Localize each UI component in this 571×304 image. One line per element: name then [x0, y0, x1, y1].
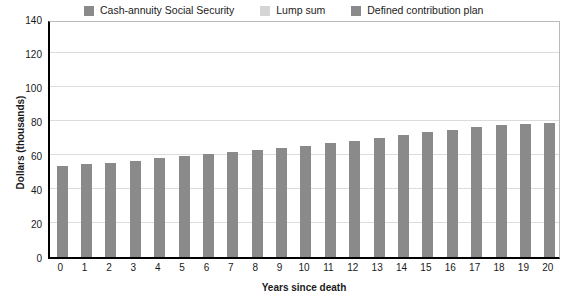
bar[interactable]: [105, 163, 116, 257]
x-axis-tick-labels: 01234567891011121314151617181920: [48, 262, 560, 276]
bar[interactable]: [349, 141, 360, 257]
bar[interactable]: [154, 158, 165, 257]
x-axis-tick-label: 14: [396, 262, 407, 274]
bar-series-defined-contribution-plan: [50, 22, 559, 257]
bar[interactable]: [374, 138, 385, 257]
bar-slot: [513, 22, 537, 257]
x-axis-tick-label: 10: [298, 262, 309, 274]
legend-item-cash-annuity-social-security[interactable]: Cash-annuity Social Security: [84, 5, 234, 16]
bar[interactable]: [300, 146, 311, 257]
bar[interactable]: [422, 132, 433, 257]
legend-item-label: Lump sum: [276, 5, 325, 16]
legend-swatch-icon: [84, 6, 94, 16]
bar[interactable]: [544, 123, 555, 257]
x-axis-tick-label: 5: [179, 262, 185, 274]
legend-item-label: Defined contribution plan: [367, 5, 483, 16]
bar[interactable]: [203, 154, 214, 257]
bar[interactable]: [496, 125, 507, 257]
bar-slot: [318, 22, 342, 257]
x-axis-tick-label: 8: [252, 262, 258, 274]
y-axis-tick-label: 0: [36, 254, 42, 264]
x-axis-tick-label: 20: [542, 262, 553, 274]
x-axis-tick-label: 17: [469, 262, 480, 274]
bar[interactable]: [130, 161, 141, 257]
x-axis-tick-label: 13: [372, 262, 383, 274]
bar-slot: [538, 22, 562, 257]
bar[interactable]: [325, 143, 336, 257]
bar-slot: [391, 22, 415, 257]
x-axis-tick-label: 7: [228, 262, 234, 274]
bar-slot: [221, 22, 245, 257]
x-axis-tick-label: 6: [204, 262, 210, 274]
plot-area: [48, 21, 560, 259]
x-axis-tick-label: 18: [493, 262, 504, 274]
bar[interactable]: [57, 166, 68, 257]
x-axis-tick-label: 0: [57, 262, 63, 274]
bar-slot: [172, 22, 196, 257]
x-axis-tick-label: 15: [420, 262, 431, 274]
x-axis-tick-label: 9: [277, 262, 283, 274]
bar-slot: [50, 22, 74, 257]
bar[interactable]: [276, 148, 287, 257]
bar[interactable]: [398, 135, 409, 257]
bar-slot: [294, 22, 318, 257]
x-axis-tick-label: 11: [323, 262, 333, 274]
y-axis-tick-label: 120: [25, 50, 42, 60]
bar[interactable]: [520, 124, 531, 257]
chart-legend: Cash-annuity Social Security Lump sum De…: [84, 3, 483, 18]
bar[interactable]: [252, 150, 263, 257]
bar-slot: [74, 22, 98, 257]
bar[interactable]: [447, 130, 458, 257]
y-axis-tick-label: 40: [31, 186, 42, 196]
legend-item-label: Cash-annuity Social Security: [100, 5, 234, 16]
y-axis-tick-label: 80: [31, 118, 42, 128]
legend-swatch-icon: [351, 6, 361, 16]
x-axis-tick-label: 3: [131, 262, 137, 274]
x-axis-tick-label: 16: [445, 262, 456, 274]
bar[interactable]: [179, 156, 190, 257]
x-axis-tick-label: 12: [347, 262, 358, 274]
y-axis-tick-label: 100: [25, 84, 42, 94]
bar-slot: [464, 22, 488, 257]
legend-item-defined-contribution-plan[interactable]: Defined contribution plan: [351, 5, 483, 16]
bar[interactable]: [471, 127, 482, 257]
y-axis-tick-labels: 020406080100120140: [0, 0, 48, 304]
bar-slot: [148, 22, 172, 257]
y-axis-tick-label: 60: [31, 152, 42, 162]
bar-slot: [416, 22, 440, 257]
x-axis-tick-label: 4: [155, 262, 161, 274]
bar-slot: [245, 22, 269, 257]
bar-slot: [343, 22, 367, 257]
x-axis-title: Years since death: [48, 282, 560, 293]
bar[interactable]: [227, 152, 238, 257]
y-axis-tick-label: 20: [31, 220, 42, 230]
bar[interactable]: [81, 164, 92, 257]
bar-slot: [440, 22, 464, 257]
bar-chart: Cash-annuity Social Security Lump sum De…: [0, 0, 571, 304]
legend-item-lump-sum[interactable]: Lump sum: [260, 5, 325, 16]
x-axis-tick-label: 19: [518, 262, 529, 274]
y-axis-tick-label: 140: [25, 16, 42, 26]
bar-slot: [489, 22, 513, 257]
bar-slot: [123, 22, 147, 257]
x-axis-tick-label: 1: [82, 262, 88, 274]
x-axis-tick-label: 2: [106, 262, 112, 274]
bar-slot: [367, 22, 391, 257]
bar-slot: [269, 22, 293, 257]
bar-slot: [196, 22, 220, 257]
legend-swatch-icon: [260, 6, 270, 16]
bar-slot: [99, 22, 123, 257]
